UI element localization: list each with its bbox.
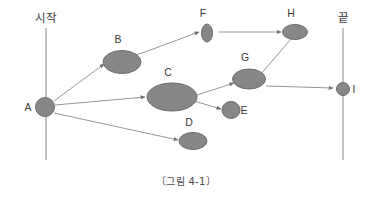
figure-caption-group: 〔그림 4-1〕: [156, 176, 216, 187]
node-label-E: E: [240, 104, 247, 116]
edge-B-to-F: [134, 32, 199, 56]
node-H[interactable]: [283, 25, 308, 40]
edge-C-to-G: [197, 83, 234, 95]
node-F[interactable]: [202, 24, 213, 42]
figure-caption: 〔그림 4-1〕: [156, 176, 216, 187]
node-label-G: G: [241, 51, 249, 63]
node-labels-group: ABCDEFGHI: [24, 7, 355, 128]
node-label-I: I: [353, 83, 356, 95]
node-E[interactable]: [222, 102, 240, 119]
node-label-F: F: [200, 7, 206, 19]
edge-G-to-I: [266, 86, 333, 88]
node-label-A: A: [24, 101, 31, 113]
network-diagram: 시작끝 ABCDEFGHI 〔그림 4-1〕: [0, 0, 372, 198]
edge-C-to-E: [194, 101, 221, 109]
figure-container: 시작끝 ABCDEFGHI 〔그림 4-1〕: [0, 0, 372, 198]
node-D[interactable]: [179, 133, 207, 150]
node-label-C: C: [164, 66, 172, 78]
node-I[interactable]: [337, 83, 350, 96]
node-A[interactable]: [36, 98, 55, 117]
edge-G-to-H: [261, 39, 291, 74]
node-label-B: B: [114, 33, 121, 45]
edges-group: [54, 32, 333, 140]
node-label-D: D: [185, 116, 193, 128]
rail-label-start: 시작: [35, 11, 57, 25]
node-label-H: H: [287, 7, 295, 19]
rail-label-end: 끝: [338, 11, 349, 25]
edge-A-to-B: [54, 64, 104, 101]
node-B[interactable]: [103, 51, 141, 74]
edge-A-to-C: [55, 97, 145, 105]
node-G[interactable]: [233, 69, 266, 89]
node-C[interactable]: [147, 83, 197, 111]
edge-A-to-D: [54, 113, 178, 140]
